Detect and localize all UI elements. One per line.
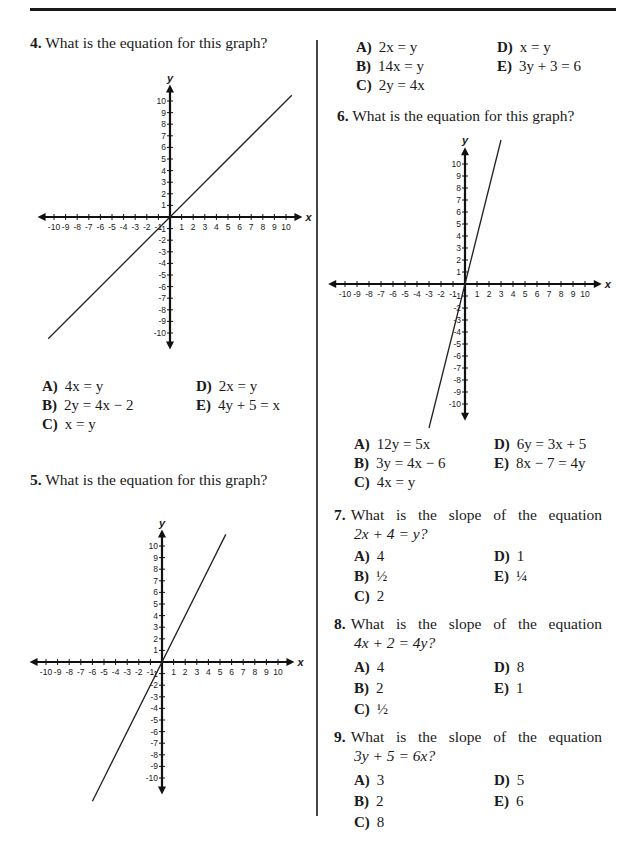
x-tick-label: 9 [272,222,277,232]
x-tick-label: -7 [377,289,385,299]
y-tick-label: -3 [158,247,166,257]
option-value: 4x = y [65,378,103,394]
x-tick-label: 8 [252,667,257,677]
option-e[interactable]: E)4y + 5 = x [196,396,280,415]
option-b[interactable]: B)2 [354,792,384,811]
x-tick-label: 6 [237,222,242,232]
y-tick-label: 1 [456,267,461,277]
x-tick-label: -5 [108,222,116,232]
option-value: 2y = 4x [379,77,425,93]
option-c[interactable]: C)½ [354,700,388,719]
arrow-up-icon [461,147,469,155]
option-c[interactable]: C)2y = 4x [356,76,425,95]
y-tick-label: 10 [149,541,159,551]
option-b[interactable]: B)2 [354,679,384,698]
y-tick-label: 2 [456,255,461,265]
y-tick-label: -2 [158,235,166,245]
y-tick-label: -6 [150,727,158,737]
y-tick-label: -9 [150,761,158,771]
x-tick-label: 3 [499,289,504,299]
option-letter: E) [494,793,509,809]
option-letter: B) [42,397,57,413]
option-letter: A) [42,378,58,394]
option-e[interactable]: E)3y + 3 = 6 [497,57,581,76]
arrow-up-icon [158,530,166,538]
x-tick-label: -2 [143,222,151,232]
y-tick-label: -2 [150,680,158,690]
x-tick-label: 3 [202,222,207,232]
y-tick-label: 6 [161,142,166,152]
option-b[interactable]: B)14x = y [356,57,424,76]
option-e[interactable]: E)¼ [494,567,527,586]
option-e[interactable]: E)6 [494,792,524,811]
option-d[interactable]: D)1 [494,547,524,566]
x-axis-label: x [604,278,612,290]
option-b[interactable]: B)½ [354,567,387,586]
x-axis-label: x [304,211,312,223]
option-c[interactable]: C)2 [354,587,384,606]
x-tick-label: 5 [218,667,223,677]
y-tick-label: 8 [153,564,158,574]
option-e[interactable]: E)1 [494,679,524,698]
y-tick-label: 7 [456,195,461,205]
option-b[interactable]: B)3y = 4x − 6 [354,454,445,473]
x-tick-label: -6 [89,667,97,677]
y-axis-label: y [158,517,166,529]
option-a[interactable]: A)12y = 5x [354,435,430,454]
option-a[interactable]: A)4 [354,547,384,566]
option-value: 6 [516,793,524,809]
option-letter: D) [494,548,510,564]
y-tick-label: -8 [158,305,166,315]
y-tick-label: -7 [453,363,461,373]
option-d[interactable]: D)2x = y [196,377,257,396]
option-letter: C) [354,814,370,830]
y-tick-label: -1 [453,291,461,301]
y-tick-label: -8 [150,750,158,760]
y-tick-label: -7 [150,738,158,748]
option-letter: A) [354,436,370,452]
x-axis-label: x [296,656,304,668]
x-tick-label: 8 [260,222,265,232]
y-tick-label: 2 [153,634,158,644]
option-d[interactable]: D)8 [494,658,524,677]
x-tick-label: -10 [339,289,352,299]
y-tick-label: -2 [453,303,461,313]
option-a[interactable]: A)4x = y [42,377,103,396]
x-tick-label: -6 [97,222,105,232]
x-tick-label: 7 [249,222,254,232]
option-letter: C) [354,588,370,604]
option-d[interactable]: D)x = y [497,38,551,57]
y-tick-label: -4 [150,703,158,713]
option-a[interactable]: A)4 [354,658,384,677]
option-letter: D) [196,378,212,394]
y-tick-label: -8 [453,375,461,385]
x-tick-label: 10 [281,222,291,232]
x-tick-label: 2 [191,222,196,232]
option-d[interactable]: D)6y = 3x + 5 [494,435,586,454]
y-tick-label: 9 [456,171,461,181]
x-tick-label: -3 [123,667,131,677]
option-letter: B) [354,455,369,471]
option-value: ½ [377,701,388,717]
option-c[interactable]: C)x = y [42,415,96,434]
option-e[interactable]: E)8x − 7 = 4y [494,454,585,473]
option-b[interactable]: B)2y = 4x − 2 [42,396,133,415]
option-value: 3 [377,772,385,788]
y-tick-label: 8 [161,119,166,129]
option-c[interactable]: C)8 [354,813,384,832]
option-value: 4x = y [377,474,415,490]
y-tick-label: -10 [449,399,462,409]
option-a[interactable]: A)3 [354,771,384,790]
x-tick-label: -3 [131,222,139,232]
x-tick-label: 3 [194,667,199,677]
option-d[interactable]: D)5 [494,771,524,790]
y-tick-label: 10 [452,159,462,169]
question-equation: 3y + 5 = 6x? [334,746,602,765]
option-c[interactable]: C)4x = y [354,473,415,492]
option-value: 2 [376,680,384,696]
y-tick-label: 6 [153,587,158,597]
y-tick-label: -6 [453,351,461,361]
option-value: 2y = 4x − 2 [64,397,133,413]
x-tick-label: -5 [401,289,409,299]
option-a[interactable]: A)2x = y [356,38,417,57]
